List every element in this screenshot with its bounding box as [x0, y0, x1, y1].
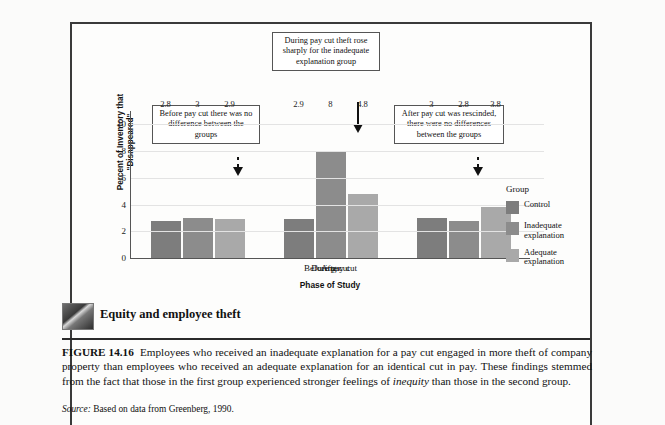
- figure-caption-tail: than those in the second group.: [429, 375, 571, 387]
- y-axis-tick: 10: [117, 119, 126, 129]
- figure-caption: FIGURE 14.16 Employees who received an i…: [62, 345, 592, 388]
- bar-value-label: 3: [195, 99, 199, 109]
- bar-value-label: 2.9: [293, 99, 304, 109]
- bar-value-label: 2.9: [224, 99, 235, 109]
- annotation-during: During pay cut theft rose sharply for th…: [272, 32, 380, 71]
- caption-divider: [62, 338, 590, 340]
- bar-column[interactable]: 2.8: [449, 111, 479, 258]
- source-label: Source:: [62, 404, 91, 414]
- page-root: Before pay cut there was no difference b…: [0, 0, 665, 425]
- bar-group: 2.832.9Before pay cut: [131, 111, 264, 258]
- bar[interactable]: [215, 219, 245, 258]
- legend-label: Control: [524, 200, 550, 210]
- y-axis-tick: 4: [122, 200, 127, 210]
- bar-column[interactable]: 3: [183, 111, 213, 258]
- bar-value-label: 2.8: [160, 99, 171, 109]
- bar[interactable]: [449, 221, 479, 258]
- gridline: [131, 124, 544, 125]
- bar-column[interactable]: 3: [417, 111, 447, 258]
- bar-value-label: 2.8: [458, 99, 469, 109]
- legend: Group ControlInadequate explanationAdequ…: [506, 184, 590, 274]
- bar-column[interactable]: 8: [316, 111, 346, 258]
- y-axis-tick: 8: [122, 146, 127, 156]
- bar[interactable]: [417, 218, 447, 258]
- y-axis-tick: 0: [122, 253, 127, 263]
- plot-area: 2.832.9Before pay cut2.984.8During cut32…: [130, 111, 530, 259]
- legend-swatch: [506, 249, 519, 262]
- bar-column[interactable]: 2.9: [215, 111, 245, 258]
- bar-groups: 2.832.9Before pay cut2.984.8During cut32…: [131, 111, 530, 258]
- bar-column[interactable]: 2.9: [284, 111, 314, 258]
- y-axis-tick: 2: [122, 226, 127, 236]
- x-axis-tick: After: [131, 263, 530, 273]
- legend-label: Adequate explanation: [524, 248, 590, 268]
- figure-number: FIGURE 14.16: [62, 346, 134, 358]
- y-axis-tick: 6: [122, 173, 127, 183]
- bar[interactable]: [183, 218, 213, 258]
- legend-item[interactable]: Control: [506, 200, 590, 214]
- bar-value-label: 3: [429, 99, 433, 109]
- legend-swatch: [506, 222, 519, 235]
- bar-column[interactable]: 4.8: [348, 111, 378, 258]
- bar-value-label: 3.8: [490, 99, 501, 109]
- figure-thumbnail-image: [62, 303, 94, 330]
- bar[interactable]: [348, 194, 378, 258]
- legend-swatch: [506, 201, 519, 214]
- legend-item[interactable]: Adequate explanation: [506, 248, 590, 268]
- bar[interactable]: [151, 221, 181, 258]
- legend-label: Inadequate explanation: [524, 221, 590, 241]
- figure-source: Source: Based on data from Greenberg, 19…: [62, 404, 234, 414]
- x-axis-label: Phase of Study: [130, 280, 530, 290]
- bar-column[interactable]: 2.8: [151, 111, 181, 258]
- gridline: [131, 205, 544, 206]
- gridline: [131, 151, 544, 152]
- bar-value-label: 8: [328, 99, 332, 109]
- figure-area: Before pay cut there was no difference b…: [72, 24, 590, 306]
- figure-subtitle: Equity and employee theft: [100, 307, 241, 322]
- bar-value-label: 4.8: [357, 99, 368, 109]
- legend-item[interactable]: Inadequate explanation: [506, 221, 590, 241]
- source-text: Based on data from Greenberg, 1990.: [93, 404, 234, 414]
- gridline: [131, 178, 544, 179]
- legend-title: Group: [506, 184, 590, 194]
- bar[interactable]: [284, 219, 314, 258]
- gridline: [131, 231, 544, 232]
- figure-caption-emphasis: inequity: [393, 375, 429, 387]
- bar-group: 2.984.8During cut: [264, 111, 397, 258]
